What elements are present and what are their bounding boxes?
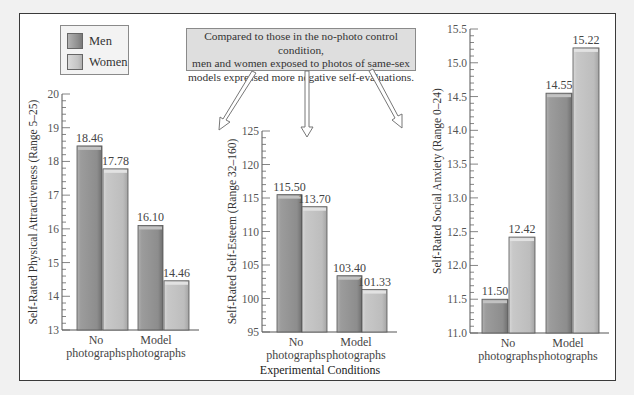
y-tick-label: 14	[48, 290, 60, 302]
y-tick-label: 13	[48, 324, 60, 336]
value-label: 11.50	[482, 284, 509, 298]
y-tick-label: 16	[48, 223, 60, 235]
value-label: 14.55	[546, 78, 573, 92]
y-tick-label: 15	[48, 257, 60, 269]
y-axis-title: Self-Rated Social Anxiety (Range 0–24)	[431, 88, 444, 274]
bar-men-model-photos	[546, 93, 572, 333]
bar-bevel	[139, 226, 162, 229]
category-label: Model	[140, 333, 172, 347]
y-tick-label: 20	[48, 88, 60, 100]
arrow-right	[369, 69, 402, 128]
bar-men-no-photos	[482, 299, 508, 333]
category-label: photographs	[538, 349, 598, 363]
y-tick-label: 14.5	[447, 91, 467, 103]
category-label: Model	[552, 336, 584, 350]
y-tick-label: 11.0	[447, 327, 467, 339]
bar-men-no-photos	[77, 146, 102, 330]
bar-bevel	[547, 94, 571, 97]
value-label: 103.40	[333, 261, 366, 275]
category-label: No	[89, 333, 104, 347]
bar-bevel	[483, 300, 507, 303]
y-tick-label: 12.0	[447, 259, 467, 271]
bar-women-no-photos	[103, 169, 128, 330]
y-tick-label: 14.0	[447, 124, 467, 136]
y-tick-label: 11.5	[447, 293, 467, 305]
value-label: 113.70	[298, 192, 331, 206]
value-label: 101.33	[358, 275, 391, 289]
bar-bevel	[363, 291, 386, 294]
bar-bevel	[165, 282, 188, 285]
chart-physical-attractiveness: 1314151617181920Self-Rated Physical Attr…	[27, 88, 199, 360]
y-tick-label: 125	[242, 125, 260, 137]
category-label: Model	[340, 335, 372, 349]
value-label: 15.22	[573, 33, 600, 47]
category-label: photographs	[266, 348, 326, 362]
value-label: 18.46	[76, 131, 103, 145]
y-tick-label: 19	[48, 122, 60, 134]
bar-bevel	[510, 238, 534, 241]
y-tick-label: 115	[242, 192, 259, 204]
category-label: No	[501, 336, 516, 350]
y-axis-title: Self-Rated Self-Esteem (Range 32–160)	[226, 139, 239, 325]
bar-women-no-photos	[509, 237, 535, 333]
chart-self-esteem: 95100105110115120125Self-Rated Self-Este…	[226, 125, 397, 362]
bar-bevel	[574, 49, 598, 52]
y-tick-label: 15.0	[447, 57, 467, 69]
bar-women-model-photos	[573, 48, 599, 333]
category-label: photographs	[126, 346, 186, 360]
y-tick-label: 18	[48, 155, 60, 167]
category-label: photographs	[66, 346, 126, 360]
y-tick-label: 12.5	[447, 226, 467, 238]
charts-canvas: 1314151617181920Self-Rated Physical Attr…	[0, 0, 634, 395]
arrow-left	[219, 71, 256, 130]
category-label: photographs	[326, 348, 386, 362]
bar-women-model-photos	[362, 290, 387, 332]
value-label: 17.78	[102, 154, 129, 168]
bar-women-no-photos	[302, 207, 327, 332]
y-tick-label: 105	[242, 259, 260, 271]
bar-men-model-photos	[138, 225, 163, 330]
y-tick-label: 15.5	[447, 23, 467, 35]
bar-bevel	[104, 170, 127, 173]
category-label: No	[289, 335, 304, 349]
category-label: photographs	[478, 349, 538, 363]
chart-social-anxiety: 11.011.512.012.513.013.514.014.515.015.5…	[431, 23, 609, 363]
y-tick-label: 95	[248, 326, 260, 338]
value-label: 16.10	[137, 210, 164, 224]
y-tick-label: 17	[48, 189, 60, 201]
bar-bevel	[303, 208, 326, 211]
bar-bevel	[78, 147, 101, 150]
y-tick-label: 100	[242, 293, 260, 305]
value-label: 12.42	[509, 222, 536, 236]
y-tick-label: 13.0	[447, 192, 467, 204]
y-tick-label: 120	[242, 159, 260, 171]
arrow-middle	[301, 71, 313, 137]
y-tick-label: 13.5	[447, 158, 467, 170]
x-axis-title: Experimental Conditions	[260, 363, 381, 377]
y-axis-title: Self-Rated Physical Attractiveness (Rang…	[27, 99, 40, 324]
bar-men-no-photos	[277, 195, 302, 332]
y-tick-label: 110	[242, 226, 259, 238]
bar-women-model-photos	[164, 281, 189, 330]
value-label: 14.46	[163, 266, 190, 280]
